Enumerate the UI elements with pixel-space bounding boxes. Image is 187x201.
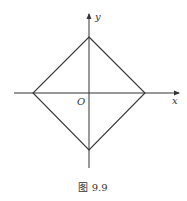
x-axis-label: x (172, 95, 178, 106)
origin-label: O (77, 96, 85, 107)
figure-caption: 图 9.9 (78, 182, 107, 193)
y-axis-label: y (94, 11, 101, 22)
diagram-canvas: y x O 图 9.9 (0, 0, 187, 201)
